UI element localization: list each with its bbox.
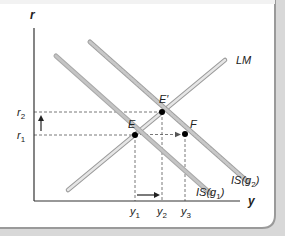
is-lm-diagram: r y r2 r1 y1 y2 y3 E E′ F LM IS(g2) IS(g… (0, 0, 285, 236)
point-e (132, 132, 138, 138)
point-f-label: F (190, 118, 198, 130)
y1-label: y1 (129, 205, 141, 220)
is-g2-label: IS(g2) (231, 174, 260, 189)
lm-curve (68, 60, 225, 190)
point-e-prime-label: E′ (159, 93, 169, 105)
r1-label: r1 (17, 129, 26, 144)
x-axis-label: y (247, 194, 256, 208)
r2-label: r2 (17, 106, 26, 121)
y3-label: y3 (180, 205, 192, 220)
y-axis-label: r (30, 8, 36, 22)
up-arrow-icon (38, 115, 44, 131)
top-strip (0, 0, 275, 4)
is-g1-label: IS(g1) (196, 186, 225, 201)
e-to-f-arrow-icon (175, 132, 181, 137)
frame-edge (0, 0, 275, 228)
point-f (182, 131, 188, 137)
lm-label: LM (236, 54, 252, 66)
y2-label: y2 (156, 205, 168, 220)
point-e-prime (159, 109, 165, 115)
point-e-label: E (128, 118, 136, 130)
right-arrow-icon (137, 192, 160, 198)
diagram-frame: r y r2 r1 y1 y2 y3 E E′ F LM IS(g2) IS(g… (0, 0, 285, 236)
axes (34, 28, 240, 201)
